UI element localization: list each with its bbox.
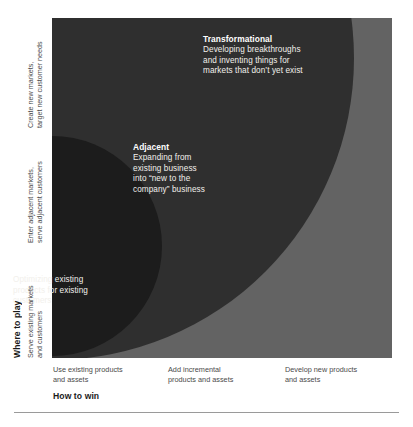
vertical-axis-title-where-to-play: Where to play [12,262,22,358]
zone-label-transformational: TransformationalDeveloping breakthroughs… [203,23,343,77]
zone-body-adjacent: Expanding from existing business into “n… [133,153,205,194]
zone-label-adjacent: AdjacentExpanding from existing business… [133,131,243,195]
vertical-axis-band-create-new-markets: Create new markets, target new customer … [26,18,44,128]
footer-divider [14,412,399,413]
horizontal-axis-title-how-to-win: How to win [53,391,99,401]
zone-body-core: Optimizing existing products for existin… [13,275,88,305]
horizontal-axis-band-existing-products: Use existing products and assets [53,365,163,384]
vertical-axis-band-adjacent-markets: Enter adjacent markets, serve adjacent c… [26,131,44,243]
zone-title-transformational: Transformational [203,34,343,45]
horizontal-axis-band-incremental-products: Add incremental products and assets [168,365,286,384]
horizontal-axis-band-new-products: Develop new products and assets [285,365,403,384]
vertical-axis-band-existing-markets: Serve existing markets and customers [26,262,44,358]
innovation-ambition-matrix-figure: TransformationalDeveloping breakthroughs… [0,0,413,427]
zone-title-adjacent: Adjacent [133,142,243,153]
zone-body-transformational: Developing breakthroughs and inventing t… [203,45,303,75]
